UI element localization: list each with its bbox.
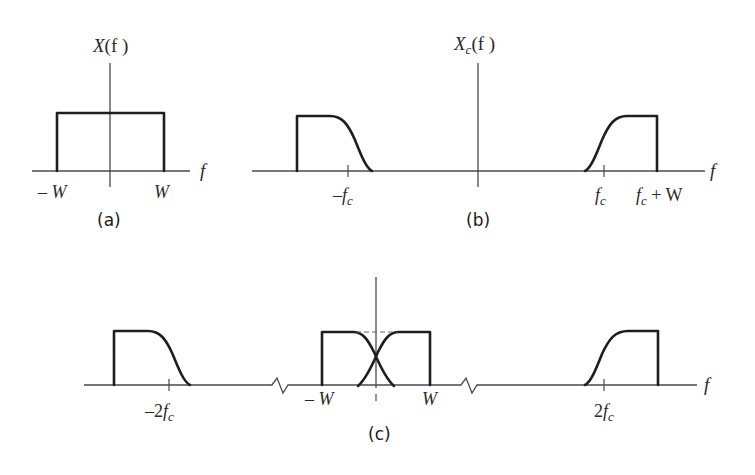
panel-b-caption: (b) (466, 210, 490, 230)
panel-b-tick-fc-label: fc (595, 185, 606, 208)
panel-a-caption: (a) (97, 210, 121, 230)
panel-b: Xc(f ) f –fc fc fc + W (b) (252, 33, 718, 230)
panel-b-tick-fc-plus-w-label: fc + W (636, 185, 683, 208)
spectrum-figure: X(f ) f – W W (a) Xc(f ) f –fc fc fc + W… (0, 0, 755, 475)
panel-a: X(f ) f – W W (a) (32, 35, 208, 230)
panel-b-tick-neg-fc-label: –fc (332, 185, 353, 208)
panel-c-lobe-2fc (585, 331, 658, 385)
panel-b-axis-label: f (710, 160, 718, 181)
panel-c-baseband-upper-component (358, 332, 430, 386)
panel-b-upper-sideband (585, 116, 657, 171)
panel-c-baseband-lower-component (322, 332, 394, 386)
panel-c-axis-label: f (704, 374, 712, 395)
panel-a-axis-label: f (200, 160, 208, 181)
panel-c: f –2fc – W W 2fc (c) (84, 277, 712, 444)
panel-c-lobe-neg-2fc (114, 331, 190, 385)
panel-a-title: X(f ) (92, 35, 128, 57)
panel-a-tick-w: W (154, 182, 171, 202)
panel-c-tick-2fc-label: 2fc (594, 401, 614, 424)
panel-c-tick-neg-w-label: – W (304, 389, 336, 409)
panel-c-caption: (c) (368, 424, 391, 444)
panel-c-tick-neg-2fc-label: –2fc (144, 401, 174, 424)
panel-b-title: Xc(f ) (453, 33, 495, 57)
panel-c-tick-w-label: W (422, 389, 439, 409)
panel-b-lower-sideband (297, 116, 372, 171)
panel-a-tick-neg-w: – W (37, 182, 69, 202)
